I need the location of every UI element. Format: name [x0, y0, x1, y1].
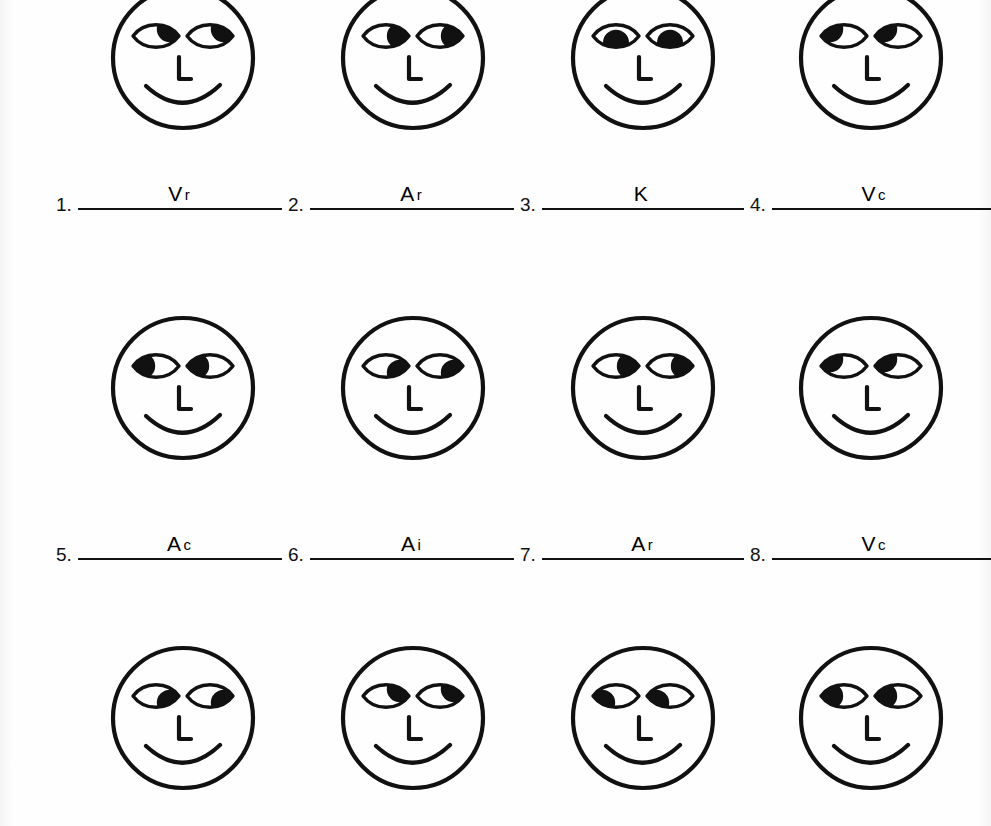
- answer-rule: [542, 558, 744, 560]
- answer-rule: [542, 208, 744, 210]
- answer-rule: [310, 558, 514, 560]
- answer-slot-5[interactable]: 5. Ac: [56, 516, 288, 564]
- face-cell-9[interactable]: [68, 638, 298, 803]
- answer-main: A: [631, 532, 646, 555]
- answer-text[interactable]: Ar: [520, 533, 750, 554]
- answer-rule: [78, 208, 282, 210]
- answer-main: A: [401, 532, 416, 555]
- answer-superscript: r: [185, 186, 190, 203]
- face-cell-4[interactable]: [756, 0, 986, 143]
- answer-superscript: i: [418, 536, 421, 553]
- answer-slot-2[interactable]: 2. Ar: [288, 166, 520, 214]
- answer-row-2: 5. Ac 6. Ai 7. Ar 8. Vc: [0, 516, 991, 564]
- face-cell-6[interactable]: [298, 308, 528, 473]
- answer-rule: [310, 208, 514, 210]
- answer-main: K: [634, 182, 649, 205]
- face-cell-1[interactable]: [68, 0, 298, 143]
- answer-superscript: r: [648, 536, 653, 553]
- answer-slot-1[interactable]: 1. Vr: [56, 166, 288, 214]
- answer-text[interactable]: Vc: [750, 183, 991, 204]
- smiley-face-icon: [325, 638, 501, 804]
- answer-text[interactable]: Ac: [56, 533, 288, 554]
- answer-superscript: c: [184, 536, 192, 553]
- answer-slot-7[interactable]: 7. Ar: [520, 516, 750, 564]
- answer-superscript: c: [878, 186, 886, 203]
- answer-main: V: [861, 182, 876, 205]
- smiley-face-icon: [783, 638, 959, 804]
- answer-slot-8[interactable]: 8. Vc: [750, 516, 991, 564]
- face-cell-10[interactable]: [298, 638, 528, 803]
- answer-text[interactable]: Vc: [750, 533, 991, 554]
- smiley-face-icon: [95, 308, 271, 474]
- smiley-face-icon: [555, 638, 731, 804]
- answer-row-1: 1. Vr 2. Ar 3. K 4. Vc: [0, 166, 991, 214]
- answer-rule: [772, 208, 991, 210]
- answer-superscript: r: [417, 186, 422, 203]
- answer-slot-3[interactable]: 3. K: [520, 166, 750, 214]
- smiley-face-icon: [95, 638, 271, 804]
- answer-text[interactable]: Ar: [288, 183, 520, 204]
- answer-main: V: [168, 182, 183, 205]
- smiley-face-icon: [555, 0, 731, 144]
- face-row-3: [0, 620, 991, 826]
- answer-slot-4[interactable]: 4. Vc: [750, 166, 991, 214]
- smiley-face-icon: [95, 0, 271, 144]
- face-cell-2[interactable]: [298, 0, 528, 143]
- answer-text[interactable]: K: [520, 183, 750, 204]
- answer-text[interactable]: Ai: [288, 533, 520, 554]
- answer-main: A: [167, 532, 182, 555]
- face-cell-7[interactable]: [528, 308, 758, 473]
- answer-rule: [772, 558, 991, 560]
- face-cell-5[interactable]: [68, 308, 298, 473]
- smiley-face-icon: [555, 308, 731, 474]
- answer-superscript: c: [878, 536, 886, 553]
- answer-rule: [78, 558, 282, 560]
- answer-slot-6[interactable]: 6. Ai: [288, 516, 520, 564]
- smiley-face-icon: [325, 0, 501, 144]
- smiley-face-icon: [325, 308, 501, 474]
- answer-text[interactable]: Vr: [56, 183, 288, 204]
- smiley-face-icon: [783, 0, 959, 144]
- face-cell-3[interactable]: [528, 0, 758, 143]
- face-cell-12[interactable]: [756, 638, 986, 803]
- worksheet-page: 1. Vr 2. Ar 3. K 4. Vc: [0, 0, 991, 826]
- answer-main: V: [861, 532, 876, 555]
- smiley-face-icon: [783, 308, 959, 474]
- answer-main: A: [400, 182, 415, 205]
- face-cell-11[interactable]: [528, 638, 758, 803]
- face-cell-8[interactable]: [756, 308, 986, 473]
